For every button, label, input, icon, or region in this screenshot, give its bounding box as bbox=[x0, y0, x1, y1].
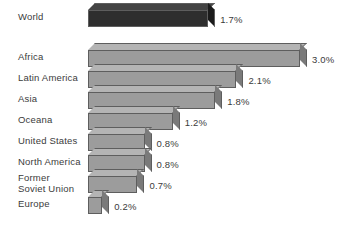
bar-top-face bbox=[88, 43, 307, 50]
bar-value-label: 0.8% bbox=[157, 138, 179, 149]
bar-value-label: 2.1% bbox=[248, 75, 270, 86]
bar-value-label: 1.2% bbox=[185, 117, 207, 128]
bar-category-label: Latin America bbox=[18, 73, 78, 84]
bar-front-face bbox=[88, 197, 102, 214]
bar-side-face bbox=[300, 43, 307, 67]
bar-value-label: 0.8% bbox=[157, 159, 179, 170]
bar-category-label: North America bbox=[18, 157, 81, 168]
bar-chart: World1.7%Africa3.0%Latin America2.1%Asia… bbox=[0, 0, 346, 227]
bar-side-face bbox=[173, 106, 180, 130]
bar-category-label: Europe bbox=[18, 199, 50, 210]
bar-top-face bbox=[88, 64, 243, 71]
bar-value-label: 0.2% bbox=[114, 201, 136, 212]
bar-top-face bbox=[88, 106, 180, 113]
bar-category-label: World bbox=[18, 12, 44, 23]
bar-category-label: United States bbox=[18, 136, 78, 147]
bar-value-label: 1.8% bbox=[227, 96, 249, 107]
bar-category-label: Oceana bbox=[18, 115, 52, 126]
bar-top-face bbox=[88, 85, 222, 92]
bar-3d bbox=[88, 197, 102, 214]
bar-top-face bbox=[88, 3, 215, 10]
bar-category-label: Former Soviet Union bbox=[18, 173, 74, 194]
bar-top-face bbox=[88, 127, 152, 134]
bar-side-face bbox=[208, 3, 215, 27]
bar-value-label: 0.7% bbox=[149, 180, 171, 191]
bar-category-label: Asia bbox=[18, 94, 37, 105]
bar-front-face bbox=[88, 10, 208, 27]
bar-side-face bbox=[137, 169, 144, 193]
bar-category-label: Africa bbox=[18, 52, 43, 63]
bar-3d bbox=[88, 10, 208, 27]
bar-side-face bbox=[102, 190, 109, 214]
bar-top-face bbox=[88, 169, 144, 176]
bar-top-face bbox=[88, 148, 152, 155]
bar-side-face bbox=[145, 148, 152, 172]
bar-side-face bbox=[236, 64, 243, 88]
bar-side-face bbox=[215, 85, 222, 109]
bar-value-label: 1.7% bbox=[220, 14, 242, 25]
bar-value-label: 3.0% bbox=[312, 54, 334, 65]
